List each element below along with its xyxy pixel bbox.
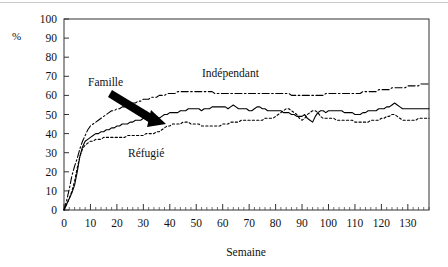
x-tick-label: 0 bbox=[61, 217, 67, 229]
x-tick-label: 120 bbox=[373, 217, 391, 229]
x-tick-label: 20 bbox=[111, 217, 123, 229]
x-tick-label: 110 bbox=[347, 217, 364, 229]
x-tick-label: 80 bbox=[270, 217, 282, 229]
x-tick-label: 70 bbox=[243, 217, 255, 229]
series-label-independant: Indépendant bbox=[202, 67, 260, 80]
y-tick-label: 50 bbox=[46, 109, 58, 121]
x-tick-label: 50 bbox=[190, 217, 202, 229]
y-tick-label: 80 bbox=[46, 51, 58, 63]
series-line-famille bbox=[64, 103, 429, 210]
x-tick-label: 40 bbox=[164, 217, 176, 229]
y-tick-label: 90 bbox=[46, 32, 58, 44]
y-tick-label: 20 bbox=[46, 166, 58, 178]
y-tick-label: 70 bbox=[46, 70, 58, 82]
x-tick-label: 60 bbox=[217, 217, 229, 229]
y-tick-label: 100 bbox=[40, 13, 58, 25]
x-axis-tick-labels: 0102030405060708090100110120130 bbox=[61, 217, 417, 229]
y-tick-label: 40 bbox=[46, 128, 58, 140]
plot-frame bbox=[64, 19, 429, 210]
y-axis-ticks bbox=[64, 19, 69, 210]
series-label-refugie: Réfugié bbox=[128, 147, 164, 160]
y-tick-label: 0 bbox=[51, 204, 57, 216]
series-label-famille: Famille bbox=[88, 76, 123, 88]
x-axis-ticks bbox=[64, 204, 429, 210]
x-tick-label: 90 bbox=[296, 217, 308, 229]
y-tick-label: 60 bbox=[46, 89, 58, 101]
x-tick-label: 100 bbox=[320, 217, 338, 229]
y-axis-unit-label: % bbox=[12, 30, 21, 42]
series-line-refugie bbox=[64, 109, 429, 210]
line-chart: 0102030405060708090100 01020304050607080… bbox=[0, 0, 448, 267]
x-axis-title: Semaine bbox=[226, 246, 266, 258]
chart-figure: 0102030405060708090100 01020304050607080… bbox=[0, 0, 448, 267]
x-tick-label: 10 bbox=[85, 217, 97, 229]
famille-callout-arrow bbox=[108, 90, 166, 127]
y-tick-label: 30 bbox=[46, 147, 58, 159]
x-tick-label: 30 bbox=[138, 217, 150, 229]
x-tick-label: 130 bbox=[399, 217, 417, 229]
y-tick-label: 10 bbox=[46, 185, 58, 197]
y-axis-tick-labels: 0102030405060708090100 bbox=[40, 13, 58, 216]
